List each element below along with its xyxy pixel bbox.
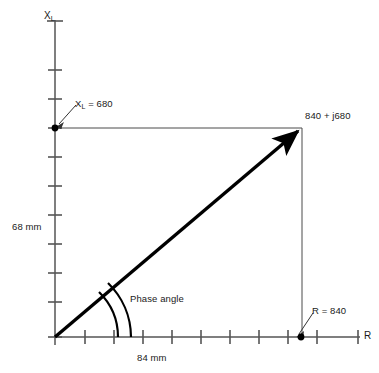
resistance-leader-line	[299, 313, 313, 334]
resistance-value-label: R = 840	[312, 305, 346, 316]
resistance-point-dot	[298, 334, 305, 341]
horizontal-scale-label: 84 mm	[137, 352, 167, 363]
vertical-axis-label: XL	[44, 10, 55, 22]
reactance-value-label: XL = 680	[75, 98, 113, 110]
phasor-diagram: XL R XL = 680 840 + j680 R = 840 Phase a…	[0, 0, 379, 373]
vector-tip-label: 840 + j680	[305, 110, 351, 121]
reactance-leader-line	[59, 105, 76, 124]
reactance-point-dot	[52, 125, 59, 132]
phasor-diagram-canvas	[0, 0, 379, 373]
impedance-vector-arrow	[55, 131, 298, 337]
horizontal-axis-label: R	[364, 330, 371, 341]
vertical-scale-label: 68 mm	[12, 221, 42, 232]
phase-angle-label: Phase angle	[130, 293, 184, 304]
